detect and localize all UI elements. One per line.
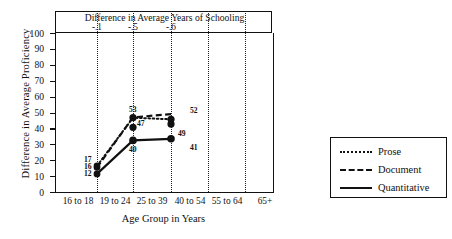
- y-tick-label-80: 80: [14, 60, 44, 70]
- y-tick-label-40: 40: [14, 124, 44, 134]
- point-label-quantitative-40-54: 41: [190, 144, 198, 152]
- point-label-document-25-39: 47: [137, 120, 145, 128]
- gridline-55-64: [208, 11, 209, 192]
- gridline-65plus: [245, 11, 246, 192]
- gridline-40-54: [171, 11, 172, 192]
- legend-line-dotted-icon: [340, 151, 372, 153]
- y-tick-label-30: 30: [14, 140, 44, 150]
- schooling-difference-title: Difference in Average Years of Schooling: [62, 12, 267, 23]
- y-tick-label-0: 0: [14, 188, 44, 198]
- chart-root: Difference in Average Proficiency 100 90…: [0, 0, 452, 239]
- y-tick-label-90: 90: [14, 44, 44, 54]
- legend-label-prose: Prose: [378, 146, 401, 157]
- point-label-quantitative-19-24: 12: [84, 170, 92, 178]
- y-tick-label-10: 10: [14, 172, 44, 182]
- y-tick-label-20: 20: [14, 156, 44, 166]
- legend-label-quantitative: Quantitative: [378, 182, 429, 193]
- x-tick-label-65plus: 65+: [232, 196, 298, 206]
- gridline-19-24: [97, 11, 98, 192]
- y-tick-label-50: 50: [14, 108, 44, 118]
- point-label-document-40-54: 49: [178, 130, 186, 138]
- legend: Prose Document Quantitative: [330, 137, 447, 198]
- x-axis-title: Age Group in Years: [55, 213, 272, 224]
- gridline-25-39: [133, 11, 134, 192]
- legend-item-quantitative: Quantitative: [340, 179, 444, 196]
- legend-item-document: Document: [340, 161, 444, 178]
- point-label-quantitative-25-39: 40: [129, 146, 137, 154]
- y-tick-label-60: 60: [14, 92, 44, 102]
- y-tick-label-70: 70: [14, 76, 44, 86]
- legend-item-prose: Prose: [340, 143, 444, 160]
- legend-label-document: Document: [378, 164, 421, 175]
- point-label-prose-25-39: 53: [129, 106, 137, 114]
- point-label-prose-40-54: 52: [190, 107, 198, 115]
- plot-frame-right-upper: [271, 11, 272, 33]
- y-tick-label-100: 100: [14, 29, 44, 39]
- legend-line-dashed-icon: [340, 169, 372, 171]
- legend-line-solid-icon: [340, 187, 372, 189]
